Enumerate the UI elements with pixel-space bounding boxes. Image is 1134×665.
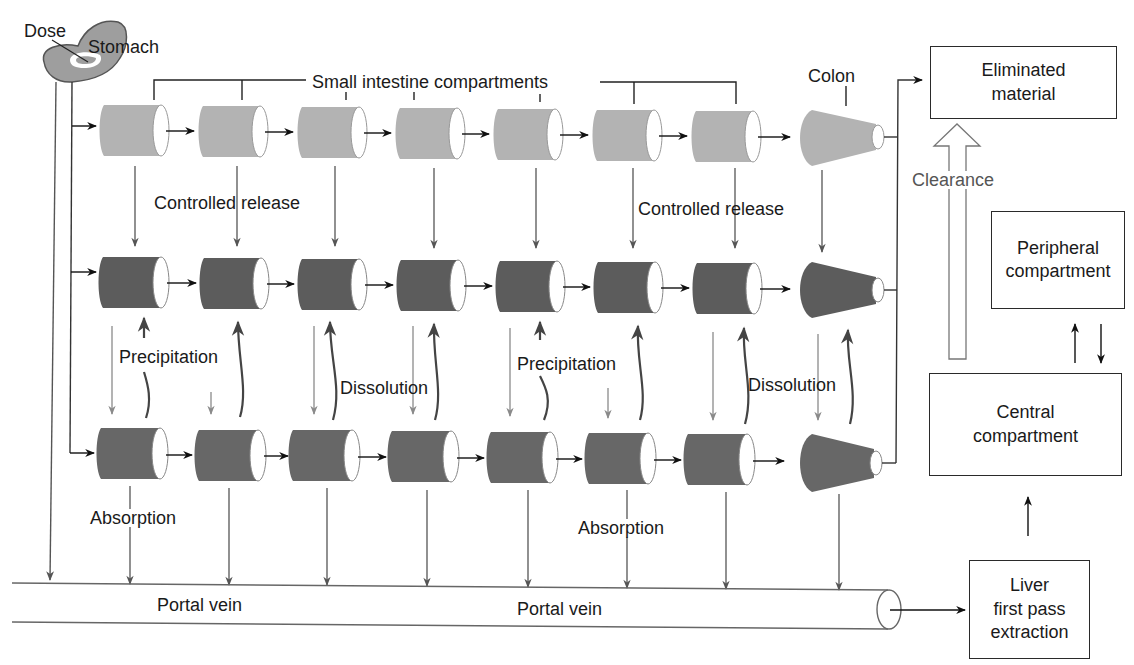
- compartment-4-undissolved: [396, 108, 466, 159]
- portal-vein-tube: [12, 583, 965, 629]
- stomach-distribution-line: [70, 82, 72, 453]
- released-row: [99, 257, 885, 318]
- compartment-3-undissolved: [298, 107, 368, 158]
- compartment-6-released: [594, 262, 664, 313]
- eliminated-material-label: Eliminated material: [981, 59, 1065, 106]
- dissolution-label-2: Dissolution: [748, 376, 836, 394]
- stomach-to-portal-line: [50, 82, 56, 580]
- compartment-6-dissolved: [585, 433, 657, 484]
- clearance-label: Clearance: [910, 171, 996, 189]
- compartment-3-released: [298, 259, 368, 310]
- undissolved-row: [100, 105, 885, 166]
- peripheral-compartment-label: Peripheral compartment: [1005, 237, 1110, 284]
- compartment-7-released: [693, 263, 763, 314]
- compartment-5-undissolved: [494, 109, 564, 160]
- colon-label: Colon: [808, 67, 855, 85]
- small-intestine-label: Small intestine compartments: [310, 73, 550, 91]
- colon-to-eliminated-line: [882, 80, 922, 463]
- compartment-3-dissolved: [289, 430, 361, 481]
- portal-vein-label-1: Portal vein: [157, 596, 242, 614]
- colon-dissolved: [800, 434, 882, 492]
- eliminated-material-box: Eliminated material: [930, 46, 1117, 119]
- compartment-1-dissolved: [97, 428, 169, 479]
- central-compartment-label: Central compartment: [973, 401, 1078, 448]
- colon-undissolved: [800, 110, 884, 166]
- stomach-label: Stomach: [88, 38, 159, 56]
- peripheral-compartment-box: Peripheral compartment: [991, 211, 1125, 309]
- compartment-6-undissolved: [593, 110, 663, 161]
- central-compartment-box: Central compartment: [929, 373, 1122, 476]
- clearance-arrow: [934, 124, 980, 359]
- portal-vein-label-2: Portal vein: [517, 600, 602, 618]
- controlled-release-label-2: Controlled release: [638, 200, 784, 218]
- colon-released: [800, 262, 884, 318]
- compartment-7-dissolved: [684, 434, 756, 485]
- absorption-label-2: Absorption: [576, 519, 666, 537]
- liver-first-pass-label: Liver first pass extraction: [990, 574, 1068, 644]
- compartment-2-undissolved: [199, 106, 269, 157]
- compartment-5-released: [496, 261, 566, 312]
- precipitation-label-1: Precipitation: [119, 348, 218, 366]
- compartment-1-undissolved: [100, 105, 170, 156]
- dissolved-row: [97, 428, 883, 492]
- dissolution-label-1: Dissolution: [340, 379, 428, 397]
- compartment-1-released: [99, 257, 170, 308]
- precipitation-label-2: Precipitation: [517, 355, 616, 373]
- absorption-label-1: Absorption: [88, 509, 178, 527]
- dose-label: Dose: [24, 22, 66, 40]
- compartment-4-dissolved: [388, 431, 460, 482]
- compartment-2-released: [200, 258, 270, 309]
- liver-first-pass-box: Liver first pass extraction: [969, 560, 1090, 659]
- compartment-2-dissolved: [195, 430, 267, 481]
- compartment-7-undissolved: [692, 111, 762, 162]
- compartment-5-dissolved: [487, 432, 559, 483]
- compartment-4-released: [397, 260, 467, 311]
- controlled-release-label-1: Controlled release: [154, 194, 300, 212]
